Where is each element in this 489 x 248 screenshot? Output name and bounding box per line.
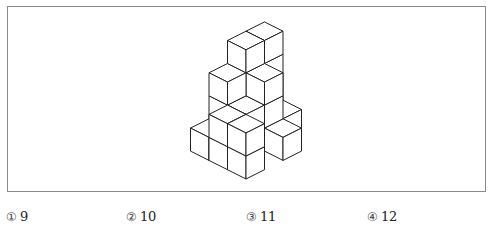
option-marker: ③ xyxy=(246,210,257,224)
option-marker: ④ xyxy=(367,210,378,224)
option-marker: ① xyxy=(6,210,17,224)
option-3[interactable]: ③11 xyxy=(246,208,276,226)
option-1[interactable]: ①9 xyxy=(6,208,28,226)
option-marker: ② xyxy=(126,210,137,224)
cube-stack-figure xyxy=(0,0,489,200)
unit-cube xyxy=(228,31,265,73)
option-value: 9 xyxy=(20,209,28,224)
option-value: 11 xyxy=(260,209,276,224)
option-2[interactable]: ②10 xyxy=(126,208,156,226)
option-value: 10 xyxy=(140,209,156,224)
cube-stack xyxy=(191,22,302,179)
option-value: 12 xyxy=(381,209,397,224)
unit-cube xyxy=(228,114,265,156)
option-4[interactable]: ④12 xyxy=(367,208,397,226)
answer-options: ①9 ②10 ③11 ④12 xyxy=(6,208,486,228)
